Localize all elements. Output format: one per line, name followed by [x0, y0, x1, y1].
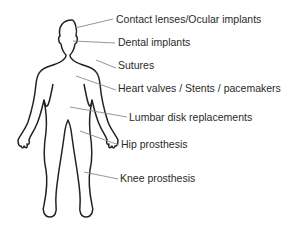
body-diagram: Contact lenses/Ocular implants Dental im… — [0, 0, 290, 233]
leader-chest — [76, 76, 116, 90]
label-knee-prosthesis: Knee prosthesis — [120, 172, 195, 184]
label-hip-prosthesis: Hip prosthesis — [121, 138, 188, 150]
label-lumbar-disk: Lumbar disk replacements — [129, 111, 252, 123]
leader-lumbar — [70, 107, 127, 117]
leader-eye — [75, 19, 113, 28]
leader-shoulder — [96, 60, 116, 68]
label-contact-lenses: Contact lenses/Ocular implants — [116, 13, 261, 25]
label-sutures: Sutures — [118, 59, 154, 71]
label-heart-valves: Heart valves / Stents / pacemakers — [118, 82, 281, 94]
label-dental-implants: Dental implants — [118, 36, 190, 48]
body-outline — [18, 20, 118, 217]
left-inner-arm — [44, 84, 53, 106]
right-inner-arm — [84, 84, 92, 106]
leader-mouth — [73, 41, 115, 43]
